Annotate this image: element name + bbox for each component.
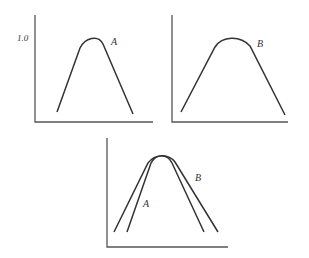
curve-b-overlay [114,156,218,232]
panel-a-axes [35,15,153,122]
label-b: B [257,38,263,49]
panel-c: A B [107,138,228,247]
curve-b [181,38,285,115]
curves-diagram: 1.0 A B A B [0,0,309,258]
label-a: A [110,36,118,47]
panel-c-axes [107,138,228,247]
panel-b: B [172,15,288,122]
curve-a [57,38,133,114]
label-b-overlay: B [195,172,201,183]
ytick-1-0: 1.0 [17,33,29,43]
label-a-overlay: A [142,198,150,209]
panel-b-axes [172,15,288,122]
panel-a: 1.0 A [17,15,153,122]
curve-a-overlay [127,156,204,232]
